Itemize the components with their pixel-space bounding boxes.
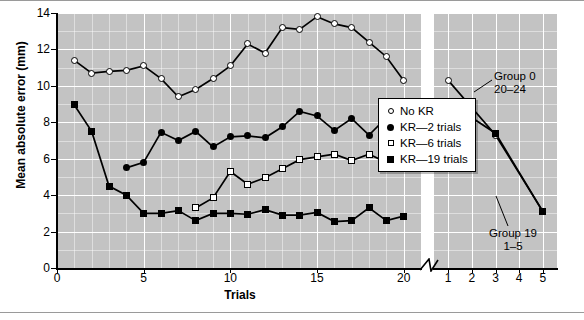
data-point-marker bbox=[314, 209, 321, 216]
x-tick-mark bbox=[496, 268, 497, 273]
data-point-marker bbox=[88, 70, 95, 77]
group-0-annotation-line2: 20–24 bbox=[494, 83, 536, 96]
data-point-marker bbox=[227, 168, 234, 175]
data-point-marker bbox=[366, 204, 373, 211]
data-point-marker bbox=[539, 208, 546, 215]
y-tick-label: 14 bbox=[10, 7, 50, 19]
data-point-marker bbox=[192, 217, 199, 224]
data-point-marker bbox=[348, 157, 355, 164]
data-point-marker bbox=[400, 213, 407, 220]
x-axis-title: Trials bbox=[190, 288, 290, 302]
data-point-marker bbox=[296, 156, 303, 163]
data-point-marker bbox=[244, 211, 251, 218]
x-tick-label: 20 bbox=[389, 272, 419, 284]
data-point-marker bbox=[123, 67, 130, 74]
data-point-marker bbox=[71, 57, 78, 64]
data-point-marker bbox=[492, 130, 499, 137]
data-point-marker bbox=[331, 127, 338, 134]
data-point-marker bbox=[175, 207, 182, 214]
group-19-annotation: Group 19 1–5 bbox=[489, 227, 537, 253]
data-point-marker bbox=[383, 217, 390, 224]
group-0-annotation: Group 0 20–24 bbox=[494, 70, 536, 96]
legend-item-kr-2: KR—2 trials bbox=[384, 119, 468, 135]
acquisition-plot-area bbox=[57, 13, 421, 268]
data-point-marker bbox=[227, 210, 234, 217]
data-point-marker bbox=[296, 26, 303, 33]
x-tick-label: 5 bbox=[129, 272, 159, 284]
data-point-marker bbox=[262, 206, 269, 213]
data-point-marker bbox=[279, 165, 286, 172]
y-tick-mark bbox=[51, 13, 56, 14]
x-tick-label: 10 bbox=[215, 272, 245, 284]
data-point-marker bbox=[262, 174, 269, 181]
y-axis-title: Mean absolute error (mm) bbox=[14, 20, 28, 210]
data-point-marker bbox=[210, 194, 217, 201]
data-point-marker bbox=[366, 39, 373, 46]
data-point-marker bbox=[314, 13, 321, 20]
y-tick-mark bbox=[51, 86, 56, 87]
legend-item-kr-19: KR—19 trials bbox=[384, 151, 468, 167]
data-point-marker bbox=[262, 134, 269, 141]
data-point-marker bbox=[244, 181, 251, 188]
data-point-marker bbox=[106, 68, 113, 75]
data-point-marker bbox=[314, 153, 321, 160]
data-point-marker bbox=[210, 75, 217, 82]
legend-item-no-kr: No KR bbox=[384, 103, 468, 119]
data-point-marker bbox=[106, 183, 113, 190]
x-tick-mark bbox=[57, 268, 58, 273]
data-point-marker bbox=[192, 128, 199, 135]
x-tick-mark bbox=[144, 268, 145, 273]
data-point-marker bbox=[210, 210, 217, 217]
legend-label-kr-19: KR—19 trials bbox=[400, 153, 468, 165]
data-point-marker bbox=[140, 210, 147, 217]
data-point-marker bbox=[296, 108, 303, 115]
open-circle-icon bbox=[384, 108, 397, 114]
data-point-marker bbox=[279, 212, 286, 219]
y-tick-label: 2 bbox=[10, 226, 50, 238]
data-point-marker bbox=[123, 192, 130, 199]
data-point-marker bbox=[348, 217, 355, 224]
data-point-marker bbox=[71, 101, 78, 108]
filled-circle-icon bbox=[384, 124, 397, 131]
x-tick-mark bbox=[472, 268, 473, 273]
group-19-annotation-line2: 1–5 bbox=[489, 240, 537, 253]
x-tick-mark bbox=[519, 268, 520, 273]
data-point-marker bbox=[383, 53, 390, 60]
chart-figure: 14121086420 05101520 12345 Mean absolute… bbox=[0, 0, 584, 320]
legend-label-no-kr: No KR bbox=[400, 105, 434, 117]
data-point-marker bbox=[140, 159, 147, 166]
legend-label-kr-6: KR—6 trials bbox=[400, 137, 461, 149]
data-point-marker bbox=[192, 204, 199, 211]
data-point-marker bbox=[88, 128, 95, 135]
chart-legend: No KR KR—2 trials KR—6 trials KR—19 tria… bbox=[378, 98, 476, 172]
open-square-icon bbox=[384, 140, 397, 146]
legend-item-kr-6: KR—6 trials bbox=[384, 135, 468, 151]
filled-square-icon bbox=[384, 156, 397, 163]
x-tick-mark bbox=[448, 268, 449, 273]
y-tick-mark bbox=[51, 195, 56, 196]
x-tick-label: 0 bbox=[42, 272, 72, 284]
y-tick-mark bbox=[51, 232, 56, 233]
x-tick-label: 15 bbox=[302, 272, 332, 284]
data-point-marker bbox=[158, 75, 165, 82]
data-point-marker bbox=[262, 50, 269, 57]
data-point-marker bbox=[366, 151, 373, 158]
x-tick-mark bbox=[543, 268, 544, 273]
data-point-marker bbox=[445, 77, 452, 84]
data-point-marker bbox=[210, 143, 217, 150]
x-tick-mark bbox=[317, 268, 318, 273]
data-point-marker bbox=[296, 212, 303, 219]
data-point-marker bbox=[175, 137, 182, 144]
acquisition-series-lines bbox=[57, 13, 421, 268]
y-tick-mark bbox=[51, 159, 56, 160]
x-tick-mark bbox=[230, 268, 231, 273]
data-point-marker bbox=[279, 24, 286, 31]
group-0-annotation-line1: Group 0 bbox=[494, 70, 536, 83]
data-point-marker bbox=[400, 77, 407, 84]
y-tick-mark bbox=[51, 49, 56, 50]
figure-bottom-rule bbox=[0, 312, 584, 313]
data-point-marker bbox=[331, 151, 338, 158]
data-point-marker bbox=[331, 218, 338, 225]
x-tick-label: 5 bbox=[528, 272, 558, 284]
x-tick-mark bbox=[404, 268, 405, 273]
